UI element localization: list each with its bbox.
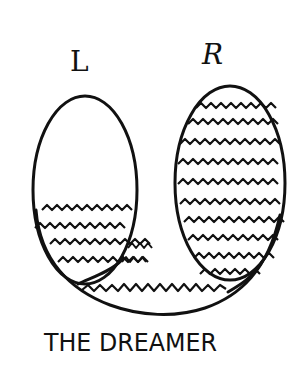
dreamer-diagram: L R THE DREAMER	[0, 0, 303, 387]
right-label: R	[202, 41, 223, 69]
left-ellipse	[33, 96, 137, 284]
connector-wavy-fill	[82, 284, 226, 291]
diagram-caption: THE DREAMER	[44, 328, 253, 357]
left-label: L	[70, 48, 89, 76]
